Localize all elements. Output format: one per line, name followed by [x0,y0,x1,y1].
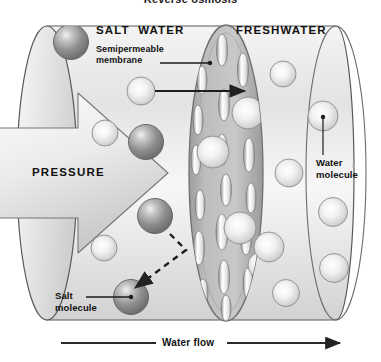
membrane-pore [219,89,230,121]
membrane-pore [217,34,228,66]
membrane-pore [244,138,255,172]
water-molecule-leader-dot [321,115,325,119]
salt-molecule-label-line2: molecule [55,302,97,313]
water-molecule [224,212,256,244]
salt-molecule [129,125,164,160]
membrane-pore [246,183,256,213]
salt-molecule [54,25,89,60]
figure-title: Reverse osmosis [0,0,381,5]
water-flow-label: Water flow [162,337,214,348]
water-molecule [197,136,229,168]
semipermeable-membrane-label-line2: membrane [96,55,142,66]
salt-molecule-label-line1: Salt [55,290,73,301]
water-molecule [319,198,348,227]
membrane-pore [221,174,232,206]
pressure-label: PRESSURE [32,166,105,178]
water-molecule [254,232,284,262]
water-molecule [270,61,296,87]
membrane-pore [221,295,231,321]
water-molecule [273,280,300,307]
membrane-pore [219,260,230,294]
water-molecule [92,120,118,146]
water-molecule-label-line1: Water [316,157,343,168]
diagram-canvas: Reverse osmosis SALT WATER FRESHWATER Se… [0,0,381,362]
membrane-pore [238,53,249,87]
salt-water-label: SALT WATER [96,24,184,36]
water-molecule [91,235,117,261]
salt-molecule-leader-dot [129,295,133,299]
semipermeable-membrane-label-line1: Semipermeable [96,44,164,55]
water-molecule [127,77,155,105]
water-molecule [320,254,349,283]
freshwater-label: FRESHWATER [236,24,327,36]
salt-molecule [138,199,173,234]
water-molecule-label-line2: molecule [316,169,358,180]
membrane-pore [193,105,203,135]
water-molecule [275,159,303,187]
membrane-leader-dot [208,61,212,65]
membrane-pore [195,190,205,220]
